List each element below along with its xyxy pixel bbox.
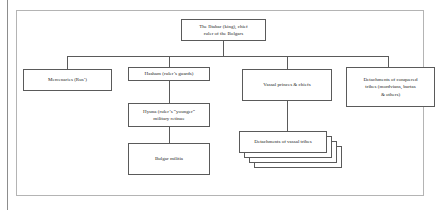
node-vassal-princes-label: Vassal princes & chiefs	[243, 81, 331, 88]
node-bulgar-militia[interactable]: Bulgar militia	[128, 143, 210, 175]
diagram-page: The Iltabar (king), chief ruler of the B…	[0, 0, 447, 210]
node-hasham-label: Hasham (ruler’s guards)	[129, 70, 209, 77]
node-vassal-detachments-stack[interactable]: Detachments of vassal tribes	[239, 131, 347, 173]
connector-drop-vassal-princes	[287, 56, 288, 69]
node-vassal-princes[interactable]: Vassal princes & chiefs	[242, 69, 332, 101]
node-hasham[interactable]: Hasham (ruler’s guards)	[128, 67, 210, 81]
connector-hyuna-to-militia	[169, 127, 170, 143]
connector-drop-hasham	[169, 56, 170, 67]
connector-vassal-princes-to-detachments	[287, 101, 288, 131]
node-hyuna-label: Hyuna (ruler’s “younger” military retinu…	[129, 108, 209, 122]
node-vassal-detachments-label: Detachments of vassal tribes	[240, 138, 326, 145]
node-iltabar[interactable]: The Iltabar (king), chief ruler of the B…	[181, 19, 266, 41]
figure-frame: The Iltabar (king), chief ruler of the B…	[16, 10, 424, 196]
node-mercenaries[interactable]: Mercenaries (Rus’)	[23, 69, 112, 91]
node-conquered-tribes-label: Detachments of conquered tribes (mordvia…	[347, 76, 434, 98]
connector-hasham-to-hyuna	[169, 81, 170, 103]
node-bulgar-militia-label: Bulgar militia	[129, 155, 209, 162]
node-iltabar-label: The Iltabar (king), chief ruler of the B…	[182, 23, 265, 37]
connector-drop-mercenaries	[67, 56, 68, 69]
connector-level2-bus	[67, 56, 388, 57]
stack-sheet-front[interactable]: Detachments of vassal tribes	[239, 131, 327, 153]
connector-drop-conquered-tribes	[388, 56, 389, 67]
node-hyuna[interactable]: Hyuna (ruler’s “younger” military retinu…	[128, 103, 210, 127]
connector-root-stem	[223, 41, 224, 56]
node-conquered-tribes[interactable]: Detachments of conquered tribes (mordvia…	[346, 67, 435, 107]
page-margin-rule	[7, 0, 8, 210]
node-mercenaries-label: Mercenaries (Rus’)	[24, 76, 111, 83]
